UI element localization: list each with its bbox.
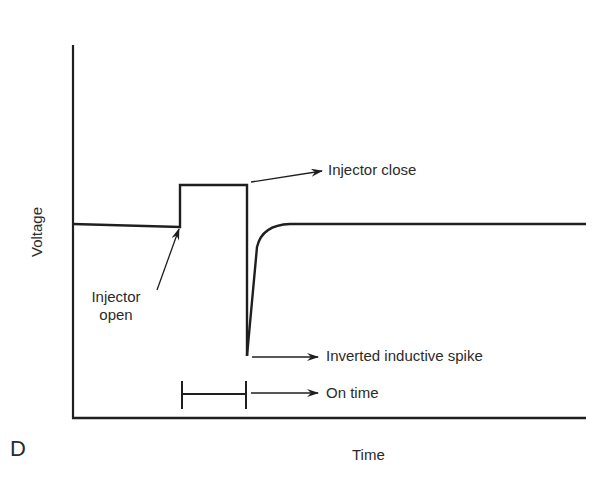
panel-letter: D: [10, 436, 26, 462]
waveform-diagram: [0, 0, 601, 479]
spike-label: Inverted inductive spike: [326, 347, 483, 365]
y-axis-label: Voltage: [28, 207, 45, 257]
injector-close-arrow: [251, 171, 322, 182]
on-time-label: On time: [326, 384, 379, 402]
injector-open-label: Injector open: [88, 288, 144, 324]
injector-close-label: Injector close: [328, 161, 416, 179]
x-axis-label: Time: [352, 446, 385, 464]
injector-open-label-line1: Injector: [88, 288, 144, 306]
voltage-waveform: [73, 185, 247, 356]
injector-open-arrow: [157, 229, 179, 290]
spike-recovery-curve: [247, 224, 586, 356]
injector-open-label-line2: open: [88, 306, 144, 324]
